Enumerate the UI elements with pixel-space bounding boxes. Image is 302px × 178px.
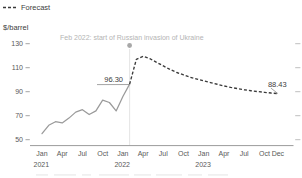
x-axis-tick-label: Jan xyxy=(36,150,47,157)
x-axis-tick-label: Jul xyxy=(240,150,249,157)
oil-price-forecast-chart: Forecast $/barrel 130110907050JanAprJulO… xyxy=(0,0,302,178)
forecast-price-line xyxy=(130,56,278,93)
x-axis-tick-label: Oct xyxy=(259,150,270,157)
clipped-footnote xyxy=(36,174,228,175)
x-axis-tick-label: Jan xyxy=(198,150,209,157)
y-axis-tick-label: 130 xyxy=(11,40,23,47)
value-callout-forecast: 88.43 xyxy=(268,80,287,94)
x-axis-tick-label: Oct xyxy=(178,150,189,157)
y-axis-tick-label: 70 xyxy=(15,112,23,119)
x-axis-tick-label: Apr xyxy=(138,150,150,158)
x-axis-tick-label: Oct xyxy=(97,150,108,157)
y-axis-tick-label: 90 xyxy=(15,88,23,95)
y-axis-unit-label: $/barrel xyxy=(3,23,29,32)
x-axis-tick-label: Jul xyxy=(78,150,87,157)
legend-forecast-label: Forecast xyxy=(21,3,51,12)
x-axis-tick-label: Apr xyxy=(219,150,231,158)
x-axis-year-label: 2023 xyxy=(195,161,211,168)
forecast-end-value-label: 88.43 xyxy=(268,80,287,89)
historical-price-line xyxy=(42,84,130,134)
x-axis-year-label: 2022 xyxy=(114,161,130,168)
axis-layer: 130110907050JanAprJulOctJanAprJulOctJanA… xyxy=(11,40,300,168)
history-peak-value-label: 96.30 xyxy=(104,75,123,84)
x-axis-tick-label: Apr xyxy=(57,150,69,158)
event-marker-dot xyxy=(127,43,132,48)
x-axis-year-label: 2021 xyxy=(34,161,50,168)
y-axis-tick-label: 50 xyxy=(15,136,23,143)
x-axis-tick-label: Jan xyxy=(117,150,128,157)
value-callout-history: 96.30 xyxy=(97,75,129,85)
x-axis-tick-label: Jul xyxy=(159,150,168,157)
event-annotation-label: Feb 2022: start of Russian invasion of U… xyxy=(60,34,204,41)
x-axis-tick-label: Dec xyxy=(272,150,285,157)
y-axis-tick-label: 110 xyxy=(12,64,23,71)
chart-legend: Forecast xyxy=(3,3,51,12)
